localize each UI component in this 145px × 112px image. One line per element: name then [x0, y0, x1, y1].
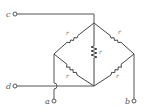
resistor-label: r: [66, 29, 70, 36]
resistor-zigzag: [54, 23, 94, 54]
resistor-zigzag: [94, 54, 134, 86]
circuit-diagram: c r r r r r d a b: [0, 0, 145, 112]
terminal-b: [132, 99, 136, 103]
resistor-bottom-left: r: [54, 54, 94, 86]
resistor-zigzag: [54, 54, 94, 86]
wire-a-with-hop: [54, 54, 57, 99]
terminal-a-group: a: [45, 54, 57, 106]
label-c: c: [6, 10, 11, 19]
terminal-c: [13, 12, 17, 16]
label-a: a: [45, 97, 50, 106]
label-b: b: [125, 97, 130, 106]
terminal-a: [52, 99, 56, 103]
resistor-label: r: [118, 28, 122, 35]
resistor-center: r: [91, 23, 103, 86]
resistor-top-left: r: [54, 23, 94, 54]
resistor-zigzag: [91, 23, 97, 86]
resistor-label: r: [116, 72, 120, 79]
terminal-d: [13, 84, 17, 88]
resistor-bottom-right: r: [94, 54, 134, 86]
resistor-label: r: [99, 48, 103, 55]
label-d: d: [6, 82, 11, 91]
terminal-c-group: c: [6, 10, 94, 23]
terminal-b-group: b: [125, 54, 136, 106]
resistor-label: r: [66, 72, 70, 79]
terminal-d-group: d: [6, 82, 94, 91]
